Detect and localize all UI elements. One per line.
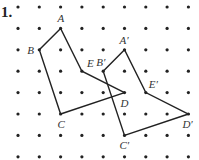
grid-dot (166, 48, 169, 51)
grid-dot (80, 48, 83, 51)
grid-dot (16, 70, 19, 73)
grid-dot (187, 155, 190, 158)
polygon-original (39, 28, 124, 114)
vertex-label: C (58, 118, 66, 130)
grid-dot (166, 134, 169, 137)
grid-dot (123, 155, 126, 158)
grid-dot (59, 155, 62, 158)
grid-dot (59, 134, 62, 137)
grid-dot (123, 27, 126, 30)
grid-dot (187, 27, 190, 30)
grid-dot (16, 5, 19, 8)
grid-dot (38, 27, 41, 30)
grid-dot (144, 48, 147, 51)
polygon-image (103, 50, 188, 136)
grid-dot (38, 91, 41, 94)
grid-dot (123, 70, 126, 73)
grid-dot (102, 134, 105, 137)
vertex-label: B (27, 44, 34, 56)
grid-dot (166, 27, 169, 30)
grid-dot (144, 134, 147, 137)
grid-dot (102, 48, 105, 51)
vertex-label: E′ (148, 78, 159, 90)
grid-dot (166, 70, 169, 73)
grid-dot (187, 5, 190, 8)
grid-dot (102, 155, 105, 158)
grid-dot (144, 27, 147, 30)
grid-dot (166, 155, 169, 158)
dot-grid-diagram: ABCDEA′B′C′D′E′ (0, 0, 199, 160)
grid-dot (102, 112, 105, 115)
grid-dot (80, 155, 83, 158)
grid-dot (187, 70, 190, 73)
grid-dot (102, 27, 105, 30)
vertex-label: C′ (120, 139, 130, 151)
grid-dot (144, 112, 147, 115)
grid-dot (166, 91, 169, 94)
grid-dot (80, 134, 83, 137)
grid-dot (144, 70, 147, 73)
grid-dot (80, 91, 83, 94)
grid-dot (59, 48, 62, 51)
vertex-label: A′ (119, 34, 130, 46)
vertex-label: D (120, 97, 129, 109)
grid-dot (187, 48, 190, 51)
grid-dot (187, 134, 190, 137)
vertex-label: E (86, 57, 94, 69)
grid-dot (59, 91, 62, 94)
grid-dot (59, 5, 62, 8)
grid-dot (16, 27, 19, 30)
grid-dot (123, 112, 126, 115)
grid-dot (144, 5, 147, 8)
grid-dot (187, 91, 190, 94)
grid-dot (166, 5, 169, 8)
vertex-label: D′ (181, 118, 193, 130)
vertex-label: B′ (96, 56, 106, 68)
vertex-label: A (57, 12, 65, 24)
grid-dot (102, 5, 105, 8)
vertex-labels: ABCDEA′B′C′D′E′ (27, 12, 193, 151)
grid-dot (38, 112, 41, 115)
grid-dot (80, 112, 83, 115)
grid-dot (16, 91, 19, 94)
grid-dot (123, 5, 126, 8)
grid-dot (16, 155, 19, 158)
grid-dot (16, 48, 19, 51)
grid-dot (16, 112, 19, 115)
grid-dot (102, 91, 105, 94)
grid-dot (16, 134, 19, 137)
grid-dot (144, 155, 147, 158)
grid-dot (80, 27, 83, 30)
grid-dot (38, 5, 41, 8)
grid-dot (38, 155, 41, 158)
grid-dot (166, 112, 169, 115)
grid-dot (38, 70, 41, 73)
grid-dot (80, 5, 83, 8)
grid-dot (59, 70, 62, 73)
grid-dot (38, 134, 41, 137)
